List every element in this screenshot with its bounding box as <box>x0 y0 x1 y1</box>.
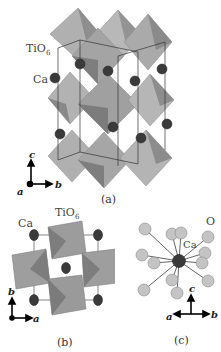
tio6-label-a: TiO6 <box>26 43 50 57</box>
ca-label-a: Ca <box>33 74 48 85</box>
tio6-octahedra <box>48 8 174 188</box>
ca-center-atom <box>173 255 186 268</box>
caption-c: (c) <box>174 335 189 346</box>
caption-a: (a) <box>101 194 116 205</box>
panel-b: TiO6 Ca b a (b) <box>0 205 115 352</box>
ca-coordination-c <box>110 210 221 352</box>
axis-triad-a <box>28 160 53 187</box>
axis-a-label-b: a <box>33 314 39 324</box>
tio6-label-a-main: TiO <box>26 42 46 55</box>
axis-a-label-c: a <box>166 312 172 322</box>
axis-b-label-c: b <box>211 310 218 320</box>
tio6-label-b-sub: 6 <box>75 213 79 221</box>
axis-b-label-b: b <box>8 287 15 297</box>
tio6-label-b-main: TiO <box>55 206 75 219</box>
caption-b: (b) <box>57 337 73 348</box>
axis-triad-b <box>9 298 32 321</box>
ca-label-b: Ca <box>18 218 33 229</box>
axis-b-label-a: b <box>55 180 62 190</box>
axis-a-label-a: a <box>17 187 23 197</box>
panel-c: Ca O c b a (c) <box>110 210 221 352</box>
tio6-label-b: TiO6 <box>55 207 79 221</box>
ca-label-c: Ca <box>183 240 197 250</box>
panel-a: TiO6 Ca c b a (a) <box>0 0 221 210</box>
tio6-label-a-sub: 6 <box>46 49 50 57</box>
axis-c-label-a: c <box>29 150 35 160</box>
o-label-c: O <box>206 216 215 227</box>
perovskite-structure-3d <box>0 0 221 210</box>
axis-c-label-c: c <box>189 284 195 294</box>
